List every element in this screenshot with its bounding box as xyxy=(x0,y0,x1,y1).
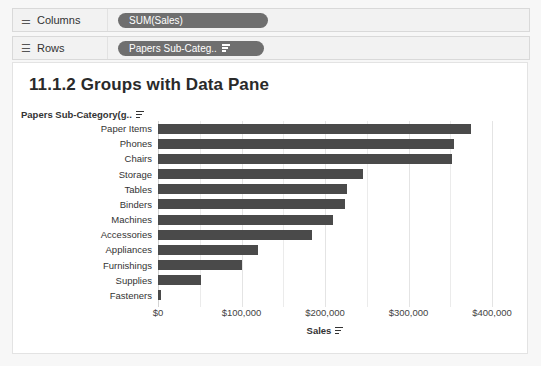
x-axis-tick-label: $300,000 xyxy=(389,307,429,318)
bar-row-label[interactable]: Accessories xyxy=(101,229,152,240)
bar-row[interactable]: Furnishings xyxy=(158,258,492,273)
view-card: 11.1.2 Groups with Data Pane Papers Sub-… xyxy=(12,62,528,354)
bar-row-label[interactable]: Binders xyxy=(120,199,152,210)
bar-row-label[interactable]: Fasteners xyxy=(110,290,152,301)
bar[interactable] xyxy=(158,245,258,255)
bar-row-label[interactable]: Paper Items xyxy=(101,123,152,134)
bar-row-label[interactable]: Furnishings xyxy=(103,260,152,271)
bar[interactable] xyxy=(158,260,242,270)
bar-row[interactable]: Supplies xyxy=(158,273,492,288)
bar-row[interactable]: Storage xyxy=(158,167,492,182)
bar-row[interactable]: Binders xyxy=(158,197,492,212)
x-axis-tick-label: $100,000 xyxy=(222,307,262,318)
columns-shelf-label: ⚌ Columns xyxy=(13,9,108,31)
x-axis-tick-label: $0 xyxy=(153,307,164,318)
bar[interactable] xyxy=(158,230,312,240)
bar-row[interactable]: Tables xyxy=(158,182,492,197)
page-title: 11.1.2 Groups with Data Pane xyxy=(29,75,269,95)
bar[interactable] xyxy=(158,184,347,194)
bar[interactable] xyxy=(158,199,345,209)
sort-icon xyxy=(222,44,230,52)
columns-icon: ⚌ xyxy=(21,15,31,26)
sort-icon[interactable] xyxy=(335,327,343,335)
bar-row[interactable]: Machines xyxy=(158,212,492,227)
bar[interactable] xyxy=(158,215,333,225)
bar-row[interactable]: Appliances xyxy=(158,242,492,257)
bar-row[interactable]: Paper Items xyxy=(158,121,492,136)
bar-row-label[interactable]: Storage xyxy=(119,169,152,180)
bar[interactable] xyxy=(158,290,161,300)
bar-row[interactable]: Chairs xyxy=(158,151,492,166)
bar-row[interactable]: Fasteners xyxy=(158,288,492,303)
x-axis-tick-label: $400,000 xyxy=(472,307,512,318)
pill-sum-sales-label: SUM(Sales) xyxy=(129,15,183,26)
bar-row-label[interactable]: Tables xyxy=(125,184,152,195)
columns-shelf-text: Columns xyxy=(37,14,80,26)
bar-rows: Paper ItemsPhonesChairsStorageTablesBind… xyxy=(158,121,492,303)
plot-area: Paper ItemsPhonesChairsStorageTablesBind… xyxy=(158,121,492,303)
rows-icon: ☰ xyxy=(21,43,31,54)
bar-row-label[interactable]: Phones xyxy=(120,138,152,149)
rows-shelf[interactable]: ☰ Rows Papers Sub-Categ.. xyxy=(12,36,530,60)
bar-row-label[interactable]: Machines xyxy=(111,214,152,225)
row-axis-header[interactable]: Papers Sub-Category(g.. xyxy=(21,109,144,120)
gridline-major xyxy=(492,121,493,307)
bar-row[interactable]: Phones xyxy=(158,136,492,151)
rows-shelf-label: ☰ Rows xyxy=(13,37,108,59)
bar[interactable] xyxy=(158,139,454,149)
columns-shelf[interactable]: ⚌ Columns SUM(Sales) xyxy=(12,8,530,32)
pill-papers-sub-category-label: Papers Sub-Categ.. xyxy=(129,43,217,54)
x-axis-tick-label: $200,000 xyxy=(305,307,345,318)
x-axis-ticks: $0$100,000$200,000$300,000$400,000 xyxy=(158,307,492,321)
bar-row-label[interactable]: Supplies xyxy=(116,275,152,286)
pill-sum-sales[interactable]: SUM(Sales) xyxy=(118,13,268,28)
bar-row[interactable]: Accessories xyxy=(158,227,492,242)
tableau-worksheet-screen: ⚌ Columns SUM(Sales) ☰ Rows Papers Sub-C… xyxy=(0,0,541,366)
bar[interactable] xyxy=(158,275,201,285)
bar[interactable] xyxy=(158,169,363,179)
x-axis-title-label: Sales xyxy=(307,325,332,336)
bar-row-label[interactable]: Appliances xyxy=(106,244,152,255)
x-axis-title[interactable]: Sales xyxy=(158,325,492,336)
sort-icon[interactable] xyxy=(136,111,144,119)
bar-row-label[interactable]: Chairs xyxy=(125,153,152,164)
rows-shelf-text: Rows xyxy=(37,42,65,54)
row-axis-header-label: Papers Sub-Category(g.. xyxy=(21,109,132,120)
bar[interactable] xyxy=(158,124,471,134)
pill-papers-sub-category[interactable]: Papers Sub-Categ.. xyxy=(118,41,264,56)
bar[interactable] xyxy=(158,154,452,164)
